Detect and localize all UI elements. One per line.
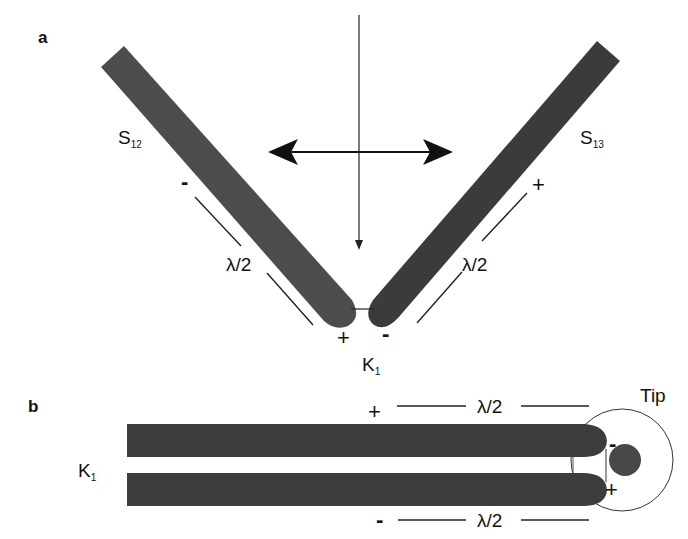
right-rod-label: S13 [580, 127, 604, 150]
bottom-antenna-bar [127, 473, 607, 506]
panel-a-label: a [38, 28, 48, 47]
left-half-wavelength-label: λ/2 [226, 254, 251, 275]
top-half-wavelength-label: λ/2 [477, 396, 502, 417]
bottom-half-wavelength-label: λ/2 [477, 510, 502, 531]
tip-label: Tip [640, 385, 666, 406]
tip-bottom-sign: + [605, 477, 618, 502]
tip-top-sign: - [609, 431, 616, 456]
bottom-bar-sign: - [376, 507, 383, 532]
panel-b: b λ/2 + λ/2 - - + Tip K1 [28, 385, 673, 532]
top-bar-sign: + [368, 399, 381, 424]
gap-k1-label-a: K1 [362, 354, 381, 377]
right-rod-top-sign: + [532, 172, 545, 197]
left-rod-label: S12 [118, 127, 142, 150]
incident-beam-arrow [355, 15, 363, 250]
panel-b-label: b [28, 397, 38, 416]
gap-k1-label-b: K1 [78, 460, 97, 483]
left-rod-bottom-sign: + [337, 325, 350, 350]
left-antenna-rod [101, 46, 356, 328]
left-rod-top-sign: - [181, 169, 188, 194]
right-half-wavelength-label: λ/2 [462, 254, 487, 275]
right-antenna-rod [368, 41, 620, 327]
panel-a: a S12 S13 λ/2 λ/2 [38, 15, 620, 377]
right-rod-bottom-sign: - [382, 321, 389, 346]
top-antenna-bar [127, 424, 607, 457]
polarization-double-arrow-icon [268, 139, 453, 165]
antenna-diagram-figure: a S12 S13 λ/2 λ/2 [0, 0, 688, 539]
